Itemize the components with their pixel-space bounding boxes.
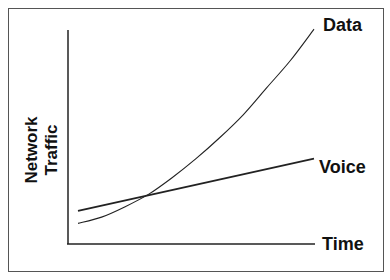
y-axis-label-line-2: Traffic [42,124,61,175]
series-label-data: Data [323,15,363,35]
series-label-voice: Voice [319,157,366,177]
series-line-data [78,29,314,223]
y-axis-label-line-1: Network [22,116,41,184]
series-line-voice [78,159,314,211]
x-axis-label: Time [322,234,364,254]
chart-svg: Network Traffic Time Data Voice [0,0,390,280]
series-layer [78,29,314,223]
